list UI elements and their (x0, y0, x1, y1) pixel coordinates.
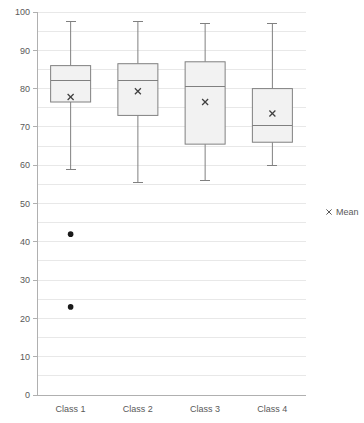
x-axis-category-labels: Class 1Class 2Class 3Class 4 (56, 404, 288, 414)
outlier-point (68, 231, 74, 237)
x-axis-category-label: Class 4 (257, 404, 287, 414)
y-axis-tick-label: 80 (20, 84, 30, 94)
legend: Mean (326, 207, 358, 217)
y-axis-tick-label: 100 (15, 7, 30, 17)
x-axis-category-label: Class 1 (56, 404, 86, 414)
box-rect (185, 62, 225, 144)
box-rect (118, 64, 158, 116)
box-plot-chart: 0102030405060708090100 Class 1Class 2Cla… (0, 0, 364, 423)
y-axis-tick-labels: 0102030405060708090100 (15, 7, 30, 400)
y-axis-tick-label: 50 (20, 199, 30, 209)
y-axis-tick-label: 30 (20, 275, 30, 285)
y-axis-tick-label: 10 (20, 352, 30, 362)
box-plot-series (118, 22, 158, 183)
y-axis-tick-label: 90 (20, 46, 30, 56)
boxes-group (51, 22, 293, 183)
box-plot-series (185, 23, 225, 180)
chart-canvas: 0102030405060708090100 Class 1Class 2Cla… (0, 0, 364, 423)
legend-entry-label: Mean (336, 207, 359, 217)
x-axis-category-label: Class 2 (123, 404, 153, 414)
outliers-group (68, 231, 74, 309)
outlier-point (68, 304, 74, 310)
box-plot-series (252, 23, 292, 165)
box-plot-series (51, 22, 91, 169)
y-axis-tick-label: 70 (20, 122, 30, 132)
y-axis-tick-label: 60 (20, 160, 30, 170)
y-axis-tick-label: 40 (20, 237, 30, 247)
y-axis-tick-label: 20 (20, 314, 30, 324)
y-axis-tick-label: 0 (25, 390, 30, 400)
x-axis-category-label: Class 3 (190, 404, 220, 414)
box-rect (252, 89, 292, 143)
